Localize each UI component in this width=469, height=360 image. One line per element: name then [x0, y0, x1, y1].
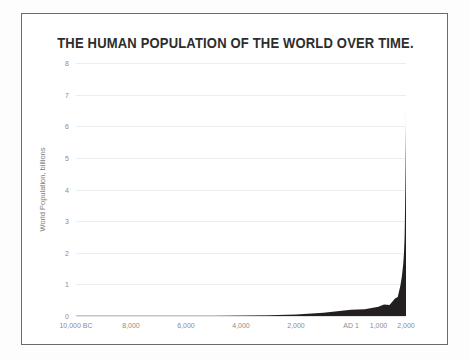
x-tick-label: 6,000 — [177, 322, 195, 329]
y-tick-label: 0 — [65, 313, 69, 320]
x-tick-label: 2,000 — [287, 322, 305, 329]
y-tick-label: 8 — [65, 60, 69, 67]
y-tick-label: 1 — [65, 281, 69, 288]
gridline — [76, 316, 406, 317]
x-tick-label: 10,000 BC — [59, 322, 92, 329]
population-area-series — [76, 63, 406, 316]
chart-slide-card: THE HUMAN POPULATION OF THE WORLD OVER T… — [21, 13, 448, 345]
population-area-path — [76, 98, 406, 316]
y-tick-label: 2 — [65, 249, 69, 256]
y-tick-label: 5 — [65, 154, 69, 161]
x-tick-label: 8,000 — [122, 322, 140, 329]
plot-area: 012345678 10,000 BC8,0006,0004,0002,000A… — [76, 63, 406, 316]
screenshot-page: THE HUMAN POPULATION OF THE WORLD OVER T… — [0, 0, 469, 360]
plot-wrapper: 012345678 10,000 BC8,0006,0004,0002,000A… — [22, 14, 449, 346]
y-tick-label: 6 — [65, 123, 69, 130]
x-tick-label: 4,000 — [232, 322, 250, 329]
y-tick-label: 4 — [65, 186, 69, 193]
x-tick-label: AD 1 — [343, 322, 359, 329]
y-tick-label: 7 — [65, 91, 69, 98]
x-tick-label: 2,000 — [397, 322, 415, 329]
x-tick-label: 1,000 — [370, 322, 388, 329]
y-tick-label: 3 — [65, 218, 69, 225]
